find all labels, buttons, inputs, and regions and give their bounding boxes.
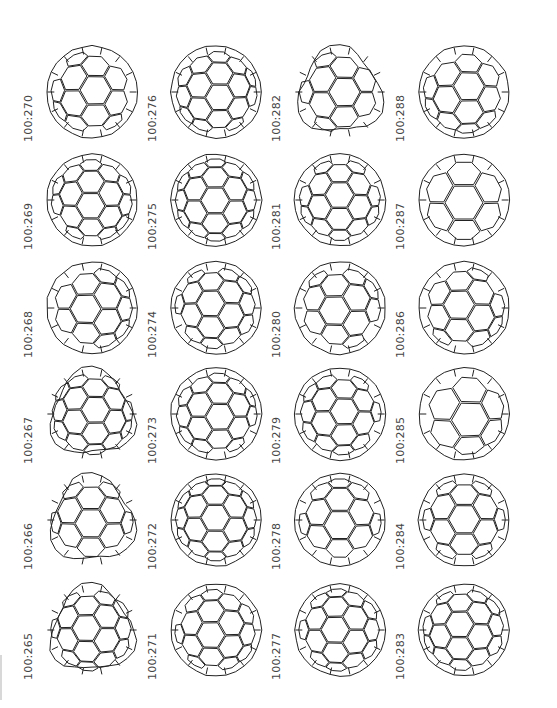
isomer-label: 100:273 [146, 417, 159, 464]
fullerene-cage-drawing [164, 256, 268, 360]
fullerene-cell: 100:270 [28, 40, 158, 150]
fullerene-cell: 100:285 [400, 362, 530, 472]
fullerene-cage-drawing [412, 362, 516, 466]
fullerene-cell: 100:265 [28, 578, 158, 688]
fullerene-cell: 100:276 [152, 40, 282, 150]
fullerene-cell: 100:280 [276, 256, 406, 366]
fullerene-grid: 100:270100:269100:268100:267100:266100:2… [0, 0, 557, 708]
fullerene-cage-drawing [412, 148, 516, 252]
fullerene-cell: 100:275 [152, 148, 282, 258]
fullerene-cell: 100:266 [28, 468, 158, 578]
fullerene-cage-drawing [40, 40, 144, 144]
isomer-label: 100:282 [270, 95, 283, 142]
fullerene-cell: 100:272 [152, 468, 282, 578]
fullerene-cell: 100:267 [28, 362, 158, 472]
isomer-label: 100:268 [22, 311, 35, 358]
fullerene-cage-drawing [288, 362, 392, 466]
fullerene-cage-drawing [412, 40, 516, 144]
isomer-label: 100:267 [22, 417, 35, 464]
isomer-label: 100:279 [270, 417, 283, 464]
fullerene-cage-drawing [40, 578, 144, 682]
isomer-label: 100:271 [146, 633, 159, 680]
isomer-label: 100:281 [270, 203, 283, 250]
fullerene-cell: 100:274 [152, 256, 282, 366]
fullerene-cell: 100:269 [28, 148, 158, 258]
fullerene-cage-drawing [288, 40, 392, 144]
fullerene-cell: 100:288 [400, 40, 530, 150]
fullerene-cell: 100:284 [400, 468, 530, 578]
fullerene-cage-drawing [164, 362, 268, 466]
fullerene-cage-drawing [288, 256, 392, 360]
isomer-label: 100:269 [22, 203, 35, 250]
isomer-label: 100:278 [270, 523, 283, 570]
fullerene-cage-drawing [288, 148, 392, 252]
fullerene-cell: 100:282 [276, 40, 406, 150]
fullerene-cage-drawing [40, 256, 144, 360]
fullerene-cage-drawing [412, 578, 516, 682]
fullerene-cell: 100:283 [400, 578, 530, 688]
isomer-label: 100:287 [394, 203, 407, 250]
isomer-label: 100:277 [270, 633, 283, 680]
fullerene-cage-drawing [164, 148, 268, 252]
fullerene-cage-drawing [40, 148, 144, 252]
fullerene-cage-drawing [164, 468, 268, 572]
fullerene-cell: 100:279 [276, 362, 406, 472]
edge-rule [0, 655, 2, 700]
fullerene-cage-drawing [164, 40, 268, 144]
isomer-label: 100:266 [22, 523, 35, 570]
fullerene-cage-drawing [40, 362, 144, 466]
fullerene-cell: 100:268 [28, 256, 158, 366]
isomer-label: 100:280 [270, 311, 283, 358]
fullerene-cell: 100:287 [400, 148, 530, 258]
isomer-label: 100:286 [394, 311, 407, 358]
fullerene-cell: 100:281 [276, 148, 406, 258]
isomer-label: 100:276 [146, 95, 159, 142]
fullerene-cell: 100:271 [152, 578, 282, 688]
fullerene-cage-drawing [288, 468, 392, 572]
fullerene-cage-drawing [288, 578, 392, 682]
isomer-label: 100:265 [22, 633, 35, 680]
fullerene-cage-drawing [40, 468, 144, 572]
isomer-label: 100:285 [394, 417, 407, 464]
isomer-label: 100:272 [146, 523, 159, 570]
fullerene-cage-drawing [164, 578, 268, 682]
fullerene-cell: 100:277 [276, 578, 406, 688]
fullerene-cell: 100:286 [400, 256, 530, 366]
isomer-label: 100:275 [146, 203, 159, 250]
isomer-label: 100:288 [394, 95, 407, 142]
fullerene-cell: 100:278 [276, 468, 406, 578]
isomer-label: 100:284 [394, 523, 407, 570]
fullerene-cage-drawing [412, 468, 516, 572]
isomer-label: 100:274 [146, 311, 159, 358]
fullerene-cell: 100:273 [152, 362, 282, 472]
fullerene-cage-drawing [412, 256, 516, 360]
isomer-label: 100:283 [394, 633, 407, 680]
isomer-label: 100:270 [22, 95, 35, 142]
